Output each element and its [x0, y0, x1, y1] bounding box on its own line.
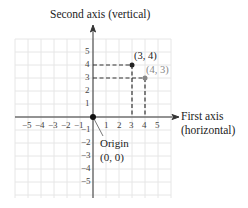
point-4-3 [143, 76, 148, 81]
coordinate-plane-svg [0, 0, 248, 208]
x-tick: −4 [35, 120, 45, 130]
horizontal-axis-label-line1: First axis [181, 110, 224, 123]
origin-label-line2: (0, 0) [100, 151, 124, 164]
point-3-4 [130, 63, 135, 68]
y-tick: 3 [85, 72, 90, 82]
x-tick: −5 [22, 120, 32, 130]
origin-point [90, 114, 96, 120]
coordinate-plane-diagram: Second axis (vertical) First axis (horiz… [0, 0, 248, 208]
horizontal-axis-label-line2: (horizontal) [181, 124, 235, 137]
y-tick: 1 [85, 98, 90, 108]
x-tick: 3 [129, 120, 134, 130]
y-tick: 2 [85, 85, 90, 95]
vertical-axis-label: Second axis (vertical) [50, 8, 150, 20]
y-tick: −4 [81, 163, 91, 173]
x-tick: −2 [61, 120, 71, 130]
x-tick: 1 [104, 120, 109, 130]
y-tick: −1 [81, 124, 91, 134]
x-tick: −3 [48, 120, 58, 130]
x-tick: 5 [155, 120, 160, 130]
x-tick: 4 [142, 120, 147, 130]
y-tick: 5 [85, 46, 90, 56]
y-tick: −5 [81, 176, 91, 186]
y-tick: 4 [85, 59, 90, 69]
x-tick: 2 [117, 120, 122, 130]
point-label-3-4: (3, 4) [134, 50, 157, 61]
y-tick: −3 [81, 150, 91, 160]
origin-label-line1: Origin [100, 137, 129, 150]
origin-leader-line [93, 117, 103, 136]
point-label-4-3: (4, 3) [146, 64, 169, 75]
y-tick: −2 [81, 137, 91, 147]
